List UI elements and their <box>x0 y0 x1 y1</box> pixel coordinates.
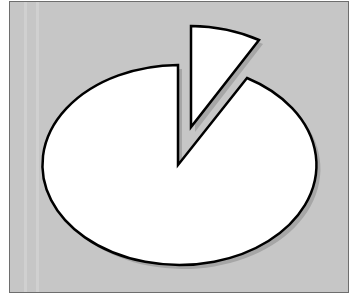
pie-chart <box>0 0 357 301</box>
